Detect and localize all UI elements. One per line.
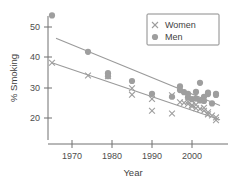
- data-point-men: [49, 12, 55, 18]
- trend-line: [56, 38, 220, 105]
- data-point-men: [149, 91, 155, 97]
- y-tick-label-40: 40: [30, 52, 40, 62]
- x-tick-label-1980: 1980: [102, 151, 122, 161]
- data-point-men: [209, 100, 215, 106]
- y-tick-label-30: 30: [30, 83, 40, 93]
- data-point-men: [197, 80, 203, 86]
- y-tick-label-50: 50: [30, 22, 40, 32]
- data-point-men: [213, 92, 219, 98]
- x-axis-title: Year: [123, 167, 142, 178]
- x-tick-label-2000: 2000: [182, 151, 202, 161]
- y-axis-title: % Smoking: [8, 54, 19, 102]
- data-point-men: [85, 49, 91, 55]
- data-point-women: [129, 92, 135, 98]
- data-point-women: [49, 60, 55, 66]
- data-point-men: [129, 78, 135, 84]
- legend-label-men: Men: [165, 32, 183, 42]
- data-point-men: [185, 91, 191, 97]
- data-point-women: [169, 111, 175, 117]
- legend-label-women: Women: [165, 20, 196, 30]
- chart-canvas: 50 40 30 20 1970 1980 1990 2000 Year % S…: [0, 0, 233, 181]
- data-point-women: [149, 108, 155, 114]
- legend-marker-men: [152, 34, 158, 40]
- data-point-men: [193, 89, 199, 95]
- x-tick-label-1970: 1970: [62, 151, 82, 161]
- legend: Women Men: [147, 14, 219, 45]
- x-tick-label-1990: 1990: [142, 151, 162, 161]
- y-tick-label-20: 20: [30, 113, 40, 123]
- data-point-men: [201, 98, 207, 104]
- data-point-men: [105, 73, 111, 79]
- smoking-scatter-chart: 50 40 30 20 1970 1980 1990 2000 Year % S…: [0, 0, 233, 181]
- data-point-men: [169, 94, 175, 100]
- data-point-men: [205, 91, 211, 97]
